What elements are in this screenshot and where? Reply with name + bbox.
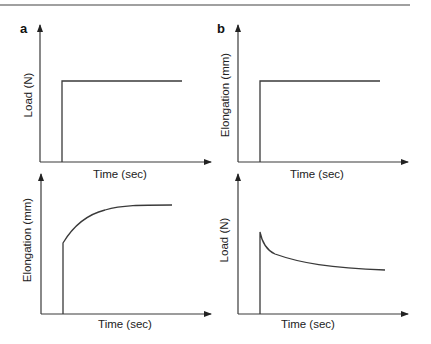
elongation-step-line <box>260 81 380 162</box>
relaxation-curve <box>260 232 385 314</box>
creep-curve <box>63 205 172 314</box>
y-axis-label: Load (N) <box>218 217 230 262</box>
x-axis-label: Time (sec) <box>281 318 335 330</box>
load-step-line <box>62 81 182 162</box>
figure-canvas: a Load (N) Time (sec) b Elongation (mm) … <box>0 0 431 344</box>
plot-b-top: b Elongation (mm) Time (sec) <box>217 21 408 180</box>
x-axis-label: Time (sec) <box>93 168 147 180</box>
panel-label-a: a <box>20 21 28 36</box>
y-axis-label: Elongation (mm) <box>219 53 231 138</box>
panel-label-b: b <box>217 21 225 36</box>
plot-b-bottom: Load (N) Time (sec) <box>218 174 408 330</box>
x-axis-label: Time (sec) <box>290 168 344 180</box>
plot-a-top: a Load (N) Time (sec) <box>20 21 211 180</box>
y-axis-label: Load (N) <box>22 72 34 117</box>
x-axis-label: Time (sec) <box>98 318 152 330</box>
plot-a-bottom: Elongation (mm) Time (sec) <box>21 174 211 330</box>
y-axis-label: Elongation (mm) <box>21 198 33 283</box>
